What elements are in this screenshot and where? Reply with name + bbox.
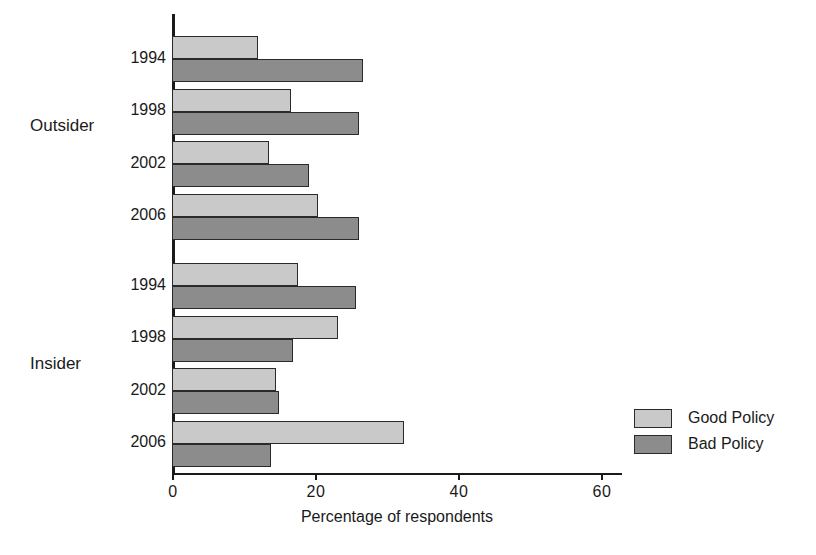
bar-good-outsider-1998 <box>172 89 291 112</box>
x-tick-20 <box>315 473 317 480</box>
bar-good-insider-2002 <box>172 368 276 391</box>
bar-good-outsider-2002 <box>172 141 269 164</box>
bar-chart: 1994 1998 2002 2006 1994 1998 2002 2006 … <box>0 0 816 555</box>
group-label-insider: Insider <box>30 354 140 374</box>
legend-item-good-policy: Good Policy <box>634 405 809 431</box>
group-axis-labels: Outsider Insider <box>30 0 150 555</box>
x-tick-0 <box>172 473 174 480</box>
x-axis-title: Percentage of respondents <box>172 508 622 526</box>
bar-good-outsider-1994 <box>172 36 258 59</box>
plot-area <box>172 14 640 473</box>
legend-swatch-good-policy <box>634 409 672 428</box>
legend-swatch-bad-policy <box>634 435 672 454</box>
bar-bad-insider-2002 <box>172 391 279 414</box>
bar-bad-outsider-2006 <box>172 217 359 240</box>
legend-label-bad-policy: Bad Policy <box>688 435 764 453</box>
x-tick-label: 20 <box>307 483 326 501</box>
bar-bad-outsider-1994 <box>172 59 363 82</box>
x-tick-label: 0 <box>168 483 177 501</box>
bar-bad-insider-1998 <box>172 339 293 362</box>
x-tick-label: 40 <box>450 483 469 501</box>
bar-bad-outsider-1998 <box>172 112 359 135</box>
bar-bad-insider-2006 <box>172 444 271 467</box>
x-tick-label: 60 <box>593 483 612 501</box>
bar-good-insider-2006 <box>172 421 404 444</box>
group-label-outsider: Outsider <box>30 116 140 136</box>
bar-good-outsider-2006 <box>172 194 318 217</box>
bar-bad-insider-1994 <box>172 286 356 309</box>
bar-good-insider-1998 <box>172 316 338 339</box>
legend-label-good-policy: Good Policy <box>688 409 774 427</box>
bar-bad-outsider-2002 <box>172 164 309 187</box>
x-axis-spine <box>172 473 622 475</box>
x-tick-60 <box>601 473 603 480</box>
bar-good-insider-1994 <box>172 263 298 286</box>
chart-legend: Good Policy Bad Policy <box>634 405 809 457</box>
legend-item-bad-policy: Bad Policy <box>634 431 809 457</box>
x-tick-40 <box>458 473 460 480</box>
